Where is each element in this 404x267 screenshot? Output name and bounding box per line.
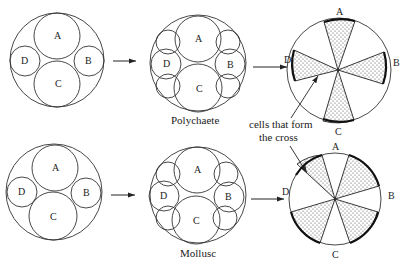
- label-a: A: [195, 33, 203, 44]
- mollusc-four-cell-stage: A C D B: [6, 144, 102, 240]
- label-d: D: [284, 54, 291, 65]
- micromere: [156, 206, 180, 230]
- sector-b-shaded: [338, 52, 386, 84]
- embryo-cleavage-diagram: A C D B A C D B Polychaete A C: [0, 0, 404, 267]
- label-b: B: [388, 190, 395, 201]
- label-d: D: [18, 186, 25, 197]
- micromere: [156, 30, 180, 54]
- annotation-line-2: the cross: [259, 131, 298, 143]
- label-d: D: [282, 186, 289, 197]
- micromere: [216, 30, 240, 54]
- caption-polychaete: Polychaete: [171, 114, 219, 126]
- sector-cd-shaded: [291, 199, 335, 243]
- label-a: A: [332, 141, 340, 152]
- micromere: [156, 162, 180, 186]
- label-b: B: [393, 57, 400, 68]
- mollusc-eight-cell-stage: A C D B Mollusc: [149, 147, 246, 259]
- mollusc-cross-stage: A C D B: [282, 141, 395, 260]
- label-c: C: [55, 78, 62, 89]
- sector-a-shaded: [324, 19, 355, 70]
- micromere: [156, 74, 180, 98]
- label-c: C: [335, 126, 342, 137]
- caption-mollusc: Mollusc: [180, 247, 216, 259]
- label-b: B: [227, 59, 234, 70]
- sector-d-shaded: [292, 50, 338, 81]
- annotation-line-1: cells that form: [249, 118, 313, 130]
- micromere: [213, 206, 237, 230]
- label-c: C: [332, 249, 339, 260]
- label-d: D: [163, 58, 170, 69]
- label-a: A: [52, 162, 60, 173]
- sector-ab-shaded: [335, 155, 379, 199]
- sector-c-shaded: [323, 70, 354, 123]
- label-a: A: [54, 30, 62, 41]
- micromere: [216, 74, 240, 98]
- polychaete-eight-cell-stage: A C D B Polychaete: [150, 15, 246, 126]
- label-b: B: [85, 55, 92, 66]
- label-a: A: [336, 6, 344, 17]
- label-b: B: [83, 187, 90, 198]
- label-c: C: [50, 211, 57, 222]
- label-a: A: [194, 164, 202, 175]
- label-b: B: [225, 191, 232, 202]
- label-d: D: [21, 55, 28, 66]
- label-c: C: [196, 83, 203, 94]
- sector-ad-shaded: [297, 155, 335, 199]
- sector-bc-shaded: [335, 199, 378, 243]
- label-c: C: [193, 215, 200, 226]
- label-d: D: [160, 190, 167, 201]
- polychaete-four-cell-stage: A C D B: [10, 13, 104, 107]
